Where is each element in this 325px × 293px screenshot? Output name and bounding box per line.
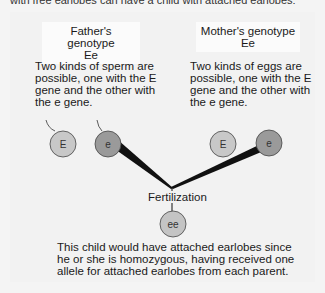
gamete-label: E bbox=[220, 139, 227, 150]
child-description-line: he or she is homozygous, having received… bbox=[57, 253, 294, 265]
zygote-label: ee bbox=[167, 219, 179, 230]
gamete-label: e bbox=[266, 138, 272, 149]
mother-egg-e: e bbox=[256, 130, 282, 156]
father-sperm-e: e bbox=[95, 131, 121, 157]
father-sperm-E: E bbox=[50, 131, 76, 157]
child-zygote-ee: ee bbox=[160, 211, 186, 237]
mother-egg-E: E bbox=[210, 131, 236, 157]
gamete-label: e bbox=[105, 139, 111, 150]
father-gamete-path bbox=[112, 140, 173, 189]
leader-line bbox=[97, 120, 102, 131]
child-description-line: This child would have attached earlobes … bbox=[57, 241, 294, 253]
fertilization-label: Fertilization bbox=[148, 191, 207, 203]
child-description: This child would have attached earlobes … bbox=[57, 241, 294, 277]
leader-line bbox=[46, 120, 55, 131]
gamete-label: E bbox=[60, 139, 67, 150]
child-description-line: allele for attached earlobes from each p… bbox=[57, 265, 294, 277]
